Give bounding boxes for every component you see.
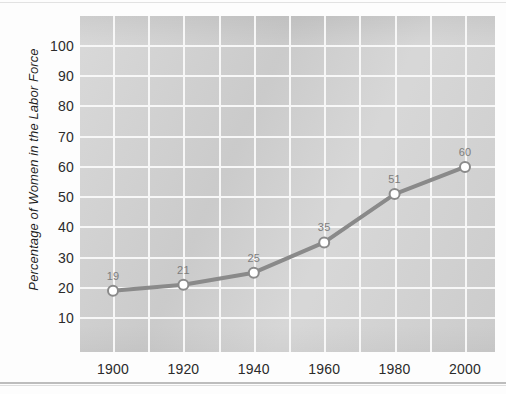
data-point-label: 35	[318, 221, 331, 233]
y-axis-title: Percentage of Women in the Labor Force	[26, 45, 41, 295]
y-tick-label: 60	[12, 159, 74, 175]
y-tick-label: 80	[12, 98, 74, 114]
data-point-marker[interactable]	[390, 189, 400, 199]
page-rule-bottom	[0, 382, 506, 384]
data-point-marker[interactable]	[249, 268, 259, 278]
y-tick-label: 100	[12, 38, 74, 54]
series-line	[113, 167, 465, 291]
line-series	[80, 16, 495, 352]
data-point-label: 19	[107, 270, 120, 282]
y-tick-label: 20	[12, 280, 74, 296]
plot-area: 192125355160	[80, 16, 495, 352]
data-point-marker[interactable]	[319, 237, 329, 247]
data-point-label: 51	[388, 173, 401, 185]
y-tick-label: 70	[12, 129, 74, 145]
x-tick-label: 1900	[97, 361, 129, 377]
data-point-label: 21	[177, 264, 190, 276]
x-tick-label: 2000	[449, 361, 481, 377]
series-markers	[108, 162, 470, 296]
y-tick-label: 10	[12, 310, 74, 326]
data-point-label: 25	[247, 252, 260, 264]
y-tick-label: 40	[12, 219, 74, 235]
y-axis-tick-labels: 100908070605040302010	[8, 0, 74, 394]
x-tick-label: 1960	[308, 361, 340, 377]
page-rule-top	[0, 2, 506, 3]
y-tick-label: 30	[12, 250, 74, 266]
x-tick-label: 1920	[167, 361, 199, 377]
page-rule-bottom-secondary	[0, 385, 506, 386]
y-tick-label: 90	[12, 68, 74, 84]
data-point-marker[interactable]	[108, 286, 118, 296]
x-tick-label: 1940	[238, 361, 270, 377]
chart-figure: 192125355160 100908070605040302010 19001…	[0, 0, 506, 394]
x-tick-label: 1980	[379, 361, 411, 377]
data-point-marker[interactable]	[460, 162, 470, 172]
data-point-marker[interactable]	[178, 280, 188, 290]
y-tick-label: 50	[12, 189, 74, 205]
data-point-label: 60	[459, 146, 472, 158]
